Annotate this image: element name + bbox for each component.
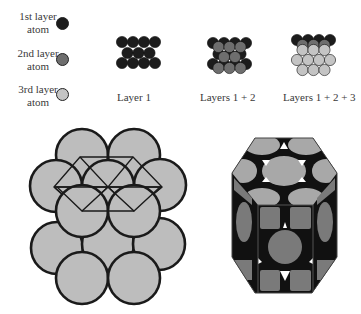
layer123-stack (291, 34, 335, 75)
diagram-canvas (0, 0, 361, 314)
caption-layer1: Layer 1 (117, 91, 151, 103)
layer12-stack (207, 37, 251, 73)
hcp-sphere-packing (30, 129, 186, 304)
hcp-hexagonal-prism (229, 135, 340, 293)
caption-layers12: Layers 1 + 2 (200, 91, 255, 103)
caption-layers123: Layers 1 + 2 + 3 (283, 91, 356, 103)
layer1-stack (116, 36, 160, 68)
